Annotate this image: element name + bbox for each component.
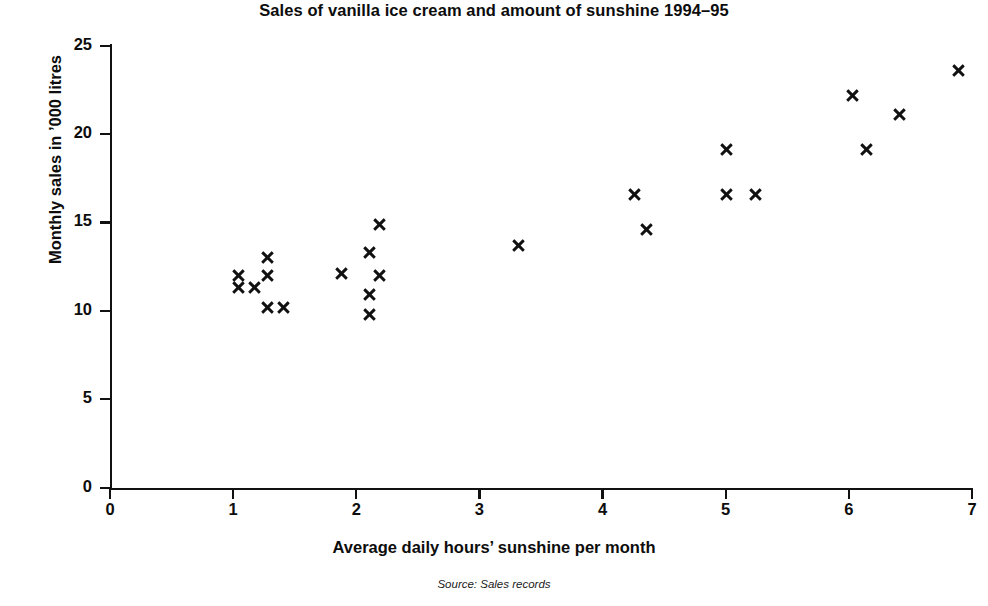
data-point-marker — [260, 299, 276, 315]
y-tick-label-5: 5 — [52, 388, 92, 407]
x-tick-label-6: 6 — [829, 500, 869, 519]
x-tick-3 — [478, 488, 480, 499]
data-point-marker — [230, 280, 246, 296]
x-tick-5 — [725, 488, 727, 499]
data-point-marker — [246, 280, 262, 296]
x-tick-1 — [232, 488, 234, 499]
y-tick-label-0: 0 — [52, 477, 92, 496]
data-point-marker — [276, 299, 292, 315]
data-point-marker — [260, 268, 276, 284]
y-tick-label-20: 20 — [52, 123, 92, 142]
data-point-marker — [230, 268, 246, 284]
y-tick-25 — [100, 45, 110, 47]
x-tick-4 — [601, 488, 603, 499]
data-point-marker — [891, 107, 907, 123]
data-point-marker — [260, 250, 276, 266]
data-point-marker — [719, 186, 735, 202]
x-tick-label-3: 3 — [459, 500, 499, 519]
x-tick-6 — [848, 488, 850, 499]
data-point-marker — [719, 142, 735, 158]
y-tick-label-10: 10 — [52, 300, 92, 319]
y-axis-line — [110, 44, 112, 490]
data-point-marker — [747, 186, 763, 202]
x-tick-label-0: 0 — [90, 500, 130, 519]
chart-canvas: Sales of vanilla ice cream and amount of… — [0, 0, 988, 606]
y-tick-20 — [100, 133, 110, 135]
x-axis-label: Average daily hours’ sunshine per month — [0, 538, 988, 557]
x-tick-label-2: 2 — [336, 500, 376, 519]
x-tick-label-7: 7 — [952, 500, 988, 519]
x-tick-label-5: 5 — [706, 500, 746, 519]
x-tick-label-4: 4 — [583, 500, 623, 519]
x-tick-0 — [109, 488, 111, 499]
x-axis-line — [110, 488, 972, 490]
data-point-marker — [362, 287, 378, 303]
chart-title: Sales of vanilla ice cream and amount of… — [0, 0, 988, 20]
data-point-marker — [362, 245, 378, 261]
data-point-marker — [639, 222, 655, 238]
data-point-marker — [627, 186, 643, 202]
data-point-marker — [950, 62, 966, 78]
y-axis-label: Monthly sales in ’000 litres — [46, 10, 65, 310]
data-point-marker — [372, 216, 388, 232]
data-point-marker — [372, 268, 388, 284]
y-tick-label-15: 15 — [52, 211, 92, 230]
data-point-marker — [858, 142, 874, 158]
y-tick-5 — [100, 398, 110, 400]
data-point-marker — [334, 266, 350, 282]
x-tick-2 — [355, 488, 357, 499]
x-tick-7 — [971, 488, 973, 499]
x-tick-label-1: 1 — [213, 500, 253, 519]
y-tick-15 — [100, 221, 110, 223]
data-point-marker — [511, 237, 527, 253]
y-tick-10 — [100, 310, 110, 312]
data-point-marker — [845, 87, 861, 103]
y-tick-label-25: 25 — [52, 35, 92, 54]
source-note: Source: Sales records — [0, 578, 988, 590]
data-point-marker — [362, 306, 378, 322]
